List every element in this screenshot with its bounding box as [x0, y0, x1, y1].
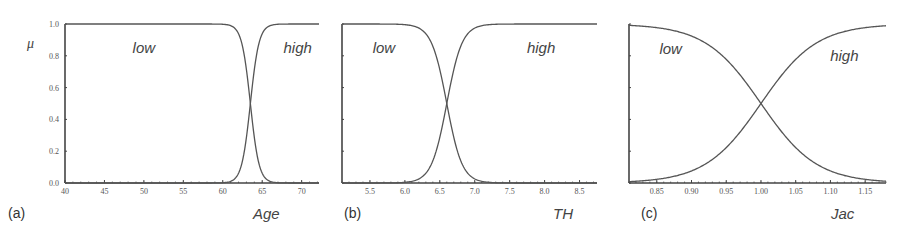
x-tick-label: 1.10	[823, 187, 837, 196]
y-tick-label: 0.6	[49, 84, 59, 93]
curve-label-low: low	[659, 40, 683, 57]
curve-label-low: low	[373, 39, 397, 56]
x-tick-label: 8.0	[540, 187, 550, 196]
x-tick-label: 7.0	[470, 187, 480, 196]
x-axis-title: Age	[252, 205, 280, 222]
x-tick-label: 0.85	[650, 187, 664, 196]
panel-b-th-chart: 5.56.06.57.07.58.08.5lowhigh(b)TH	[342, 24, 597, 222]
y-tick-label: 0.0	[49, 179, 59, 188]
x-tick-label: 1.00	[754, 187, 768, 196]
x-tick-label: 45	[100, 187, 108, 196]
curve-high	[65, 24, 319, 183]
x-tick-label: 0.90	[685, 187, 699, 196]
x-tick-label: 50	[140, 187, 148, 196]
x-tick-label: 6.5	[435, 187, 445, 196]
x-axis-title: Jac	[830, 205, 855, 222]
x-tick-label: 7.5	[505, 187, 515, 196]
x-tick-label: 0.95	[719, 187, 733, 196]
curve-label-high: high	[830, 47, 858, 64]
y-tick-label: 0.2	[49, 147, 59, 156]
y-axis-title: μ	[26, 36, 34, 51]
y-tick-label: 0.8	[49, 52, 59, 61]
panel-a-age-chart: 0.00.20.40.60.81.040455055606570lowhigh(…	[8, 20, 319, 222]
panel-c-jac-chart: 0.850.900.951.001.051.101.15lowhigh(c)Ja…	[629, 24, 886, 222]
x-axis-title: TH	[553, 205, 573, 222]
x-tick-label: 1.05	[789, 187, 803, 196]
curve-low	[65, 24, 319, 183]
x-tick-label: 70	[298, 187, 306, 196]
x-tick-label: 5.5	[365, 187, 375, 196]
x-tick-label: 55	[179, 187, 187, 196]
curve-label-high: high	[284, 39, 312, 56]
curve-label-low: low	[133, 39, 157, 56]
x-tick-label: 65	[258, 187, 266, 196]
x-tick-label: 1.15	[858, 187, 872, 196]
y-tick-label: 0.4	[49, 115, 59, 124]
figure: 0.00.20.40.60.81.040455055606570lowhigh(…	[0, 0, 911, 235]
x-tick-label: 40	[61, 187, 69, 196]
panel-label: (c)	[641, 205, 657, 221]
curve-label-high: high	[527, 39, 555, 56]
x-tick-label: 6.0	[400, 187, 410, 196]
panel-label: (b)	[344, 205, 361, 221]
x-tick-label: 8.5	[575, 187, 585, 196]
y-tick-label: 1.0	[49, 20, 59, 29]
x-tick-label: 60	[219, 187, 227, 196]
panel-label: (a)	[8, 205, 25, 221]
